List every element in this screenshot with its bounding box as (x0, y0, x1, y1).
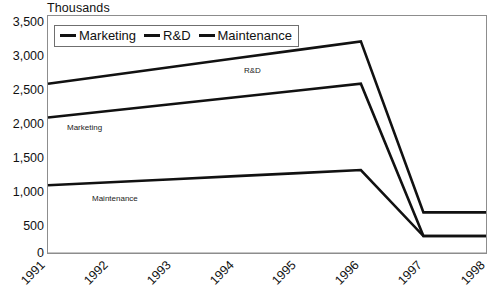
x-tick-1996: 1996 (332, 258, 362, 288)
y-axis-unit-caption: Thousands (47, 1, 110, 15)
series-layer (48, 16, 486, 253)
x-tick-1997: 1997 (395, 258, 425, 288)
x-tick-1995: 1995 (269, 258, 299, 288)
y-tick-1500: 1,500 (0, 151, 44, 165)
x-tick-1992: 1992 (81, 258, 111, 288)
inplot-label-rnd: R&D (244, 66, 261, 75)
series-line-marketing (48, 84, 486, 236)
legend-swatch-icon (60, 34, 76, 38)
y-tick-2000: 2,000 (0, 117, 44, 131)
y-tick-3500: 3,500 (0, 15, 44, 29)
legend-label-maintenance: Maintenance (218, 28, 292, 43)
legend-item-marketing[interactable]: Marketing (60, 28, 136, 43)
plot-area: R&D Marketing Maintenance (47, 15, 487, 254)
line-chart: Thousands 3,500 3,000 2,500 2,000 1,500 … (0, 0, 496, 297)
y-tick-500: 500 (0, 219, 44, 233)
legend-label-rnd: R&D (163, 28, 190, 43)
inplot-label-maintenance: Maintenance (92, 194, 138, 203)
legend: Marketing R&D Maintenance (54, 25, 299, 47)
legend-item-rnd[interactable]: R&D (144, 28, 190, 43)
legend-label-marketing: Marketing (79, 28, 136, 43)
y-axis-tick-labels: 3,500 3,000 2,500 2,000 1,500 1,000 500 … (0, 0, 44, 297)
legend-item-maintenance[interactable]: Maintenance (199, 28, 292, 43)
inplot-label-marketing: Marketing (67, 123, 102, 132)
x-tick-1998: 1998 (458, 258, 488, 288)
x-tick-1993: 1993 (144, 258, 174, 288)
y-tick-1000: 1,000 (0, 185, 44, 199)
legend-swatch-icon (199, 34, 215, 38)
x-tick-1994: 1994 (207, 258, 237, 288)
series-line-rnd (48, 41, 486, 212)
y-tick-3000: 3,000 (0, 49, 44, 63)
legend-swatch-icon (144, 34, 160, 38)
y-tick-2500: 2,500 (0, 83, 44, 97)
